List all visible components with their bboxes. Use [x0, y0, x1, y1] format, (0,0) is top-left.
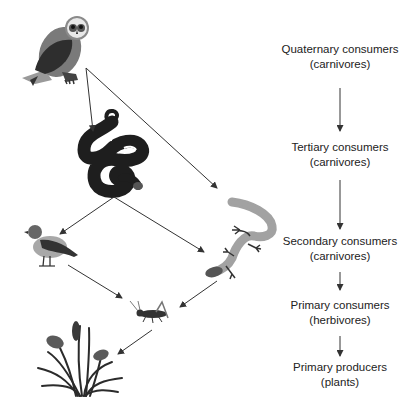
- arrow-owl-to-snake: [86, 68, 93, 131]
- level-secondary: Secondary consumers (carnivores): [265, 234, 414, 264]
- level-subtitle: (carnivores): [265, 57, 414, 72]
- grasshopper-icon: [130, 301, 168, 323]
- level-primary-producers: Primary producers (plants): [265, 360, 414, 390]
- arrow-snake-to-bird: [60, 197, 114, 234]
- level-title: Primary consumers: [265, 298, 414, 313]
- owl-icon: [22, 16, 89, 86]
- cattail-plants-icon: [38, 321, 122, 396]
- level-subtitle: (plants): [265, 375, 414, 390]
- arrow-bird-to-grasshopper: [68, 265, 122, 298]
- level-tertiary: Tertiary consumers (carnivores): [265, 140, 414, 170]
- level-title: Tertiary consumers: [265, 140, 414, 155]
- level-title: Quaternary consumers: [265, 42, 414, 57]
- level-primary-consumers: Primary consumers (herbivores): [265, 298, 414, 328]
- arrow-snake-to-lizard: [114, 197, 204, 252]
- lizard-icon: [204, 202, 272, 279]
- level-subtitle: (carnivores): [265, 155, 414, 170]
- food-web-diagram: Quaternary consumers (carnivores) Tertia…: [0, 0, 414, 415]
- level-subtitle: (herbivores): [265, 313, 414, 328]
- snake-icon: [84, 111, 143, 192]
- arrow-grasshopper-to-plants: [118, 330, 152, 354]
- level-subtitle: (carnivores): [265, 249, 414, 264]
- bird-icon: [24, 225, 78, 266]
- arrow-lizard-to-grasshopper: [180, 281, 217, 307]
- level-title: Secondary consumers: [265, 234, 414, 249]
- level-title: Primary producers: [265, 360, 414, 375]
- level-quaternary: Quaternary consumers (carnivores): [265, 42, 414, 72]
